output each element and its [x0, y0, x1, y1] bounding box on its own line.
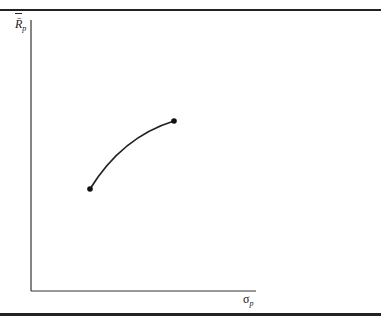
y-axis-label: R̄p — [15, 17, 26, 33]
bar-accent — [15, 13, 22, 14]
x-axis-label: σp — [243, 292, 253, 308]
frontier-curve — [90, 121, 174, 189]
endpoint-low-marker — [87, 186, 93, 192]
endpoint-high-marker — [171, 118, 177, 124]
diagram-canvas — [0, 0, 391, 321]
